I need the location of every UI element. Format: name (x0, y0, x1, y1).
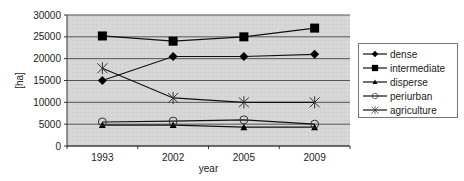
y-tick-label: 0 (55, 141, 61, 152)
point-intermediate-marker (310, 24, 319, 33)
legend-intermediate-marker (372, 65, 378, 71)
y-tick-label: 15000 (33, 75, 61, 86)
point-intermediate-marker (169, 37, 178, 46)
legend-item-dense: dense (363, 47, 453, 61)
y-axis-ticks: 050001000015000200002500030000 (33, 10, 67, 152)
y-tick-label: 25000 (33, 31, 61, 42)
x-tick-label: 2005 (233, 152, 256, 163)
legend-swatch-disperse (363, 77, 387, 87)
legend-item-intermediate: intermediate (363, 61, 453, 75)
point-intermediate-marker (98, 31, 107, 40)
legend-swatch-agriculture (363, 105, 387, 115)
y-tick-label: 10000 (33, 97, 61, 108)
legend-swatch-intermediate (363, 63, 387, 73)
legend-label: periurban (390, 91, 432, 102)
x-axis-title: year (199, 163, 219, 174)
y-tick-label: 30000 (33, 10, 61, 21)
legend-item-agriculture: agriculture (363, 103, 453, 117)
y-tick-label: 20000 (33, 53, 61, 64)
legend: denseintermediatedisperseperiurbanagricu… (358, 43, 458, 118)
legend-item-periurban: periurban (363, 89, 453, 103)
x-tick-label: 2009 (304, 152, 327, 163)
legend-dense-marker (372, 51, 378, 57)
point-intermediate-marker (239, 32, 248, 41)
y-axis-title: [ha] (14, 72, 25, 89)
legend-swatch-dense (363, 49, 387, 59)
legend-swatch-periurban (363, 91, 387, 101)
x-tick-label: 2002 (162, 152, 185, 163)
legend-item-disperse: disperse (363, 75, 453, 89)
legend-label: disperse (390, 77, 428, 88)
y-tick-label: 5000 (39, 119, 62, 130)
legend-label: dense (390, 49, 417, 60)
legend-label: agriculture (390, 105, 437, 116)
x-tick-label: 1993 (91, 152, 114, 163)
x-axis-ticks: 1993200220052009 (67, 146, 350, 163)
legend-label: intermediate (390, 63, 445, 74)
